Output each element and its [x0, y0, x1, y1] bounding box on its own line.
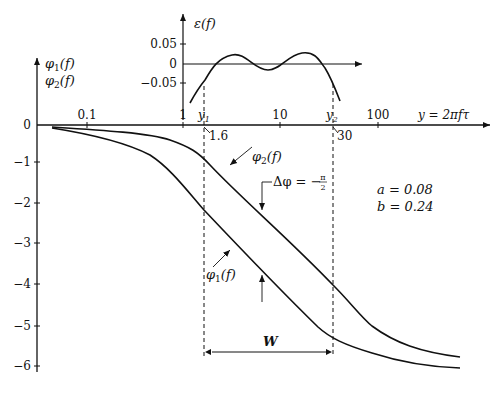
y-axis-label-phi1: φ1(f): [45, 56, 75, 73]
param-a: a = 0.08: [377, 182, 433, 197]
inset-tick-0: 0: [169, 57, 177, 71]
x-tick-10: 10: [272, 108, 287, 122]
phi2-curve-label: φ2(f): [252, 149, 282, 166]
y-tick-m3: −3: [13, 236, 31, 250]
y-axis-label-phi2: φ2(f): [45, 73, 75, 90]
inset-tick-0.05: 0.05: [150, 37, 177, 51]
w-band-label: W: [263, 334, 279, 349]
epsilon-curve: [190, 53, 340, 103]
y2-label: y2: [325, 108, 338, 124]
y-tick-m4: −4: [13, 277, 31, 291]
delta-phi-two: 2: [320, 183, 325, 192]
delta-phi-pi: π: [320, 173, 325, 182]
inset-y-label: ε(f): [194, 16, 216, 31]
y-tick-m5: −5: [13, 319, 31, 333]
phase-chart: 0 −1 −2 −3 −4 −5 −6 φ1(f) φ2(f) 0.1 1 10…: [0, 0, 495, 398]
delta-phi-label: Δφ = −: [273, 174, 322, 189]
x-tick-100: 100: [367, 108, 390, 122]
param-b: b = 0.24: [377, 199, 433, 214]
phi1-curve: [52, 128, 460, 368]
y1-value: 1.6: [209, 129, 228, 143]
y-tick-0: 0: [23, 118, 31, 132]
y-tick-m1: −1: [13, 155, 31, 169]
y-tick-m6: −6: [13, 359, 31, 373]
phi1-curve-label: φ1(f): [206, 267, 236, 284]
y-tick-m2: −2: [13, 196, 31, 210]
y2-value: 30: [337, 129, 352, 143]
y1-label: y1: [197, 108, 210, 124]
inset-tick-m0.05: −0.05: [140, 76, 177, 90]
x-tick-0.1: 0.1: [77, 108, 96, 122]
x-axis-label: y = 2πfτ: [417, 108, 469, 122]
y-tick-labels: 0 −1 −2 −3 −4 −5 −6: [13, 118, 31, 373]
